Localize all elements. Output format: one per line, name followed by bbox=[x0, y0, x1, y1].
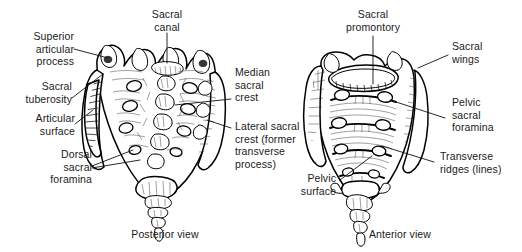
leader-sacral-wings bbox=[418, 55, 448, 68]
label-dorsal-sacral-foramina: Dorsal sacral foramina bbox=[2, 148, 92, 186]
label-median-sacral-crest: Median sacral crest bbox=[235, 66, 297, 104]
label-superior-articular-process: Superior articular process bbox=[2, 30, 74, 68]
label-sacral-wings: Sacral wings bbox=[452, 40, 514, 65]
label-lateral-sacral-crest: Lateral sacral crest (former transverse … bbox=[235, 120, 319, 170]
leader-superior-articular-process bbox=[74, 49, 108, 58]
leader-pelvic-surface bbox=[340, 156, 372, 180]
leader-sacral-tuberosity bbox=[72, 74, 103, 98]
label-pelvic-sacral-foramina: Pelvic sacral foramina bbox=[452, 96, 518, 134]
label-transverse-ridges: Transverse ridges (lines) bbox=[440, 150, 522, 175]
leader-lateral-sacral-crest bbox=[207, 120, 231, 128]
label-pelvic-surface: Pelvic surface bbox=[272, 172, 336, 197]
label-sacral-tuberosity: Sacral tuberosity bbox=[2, 80, 72, 105]
anatomy-figure: Superior articular process Sacral tubero… bbox=[0, 0, 522, 252]
leader-pelvic-sacral-foramina bbox=[390, 100, 445, 118]
label-articular-surface: Articular surface bbox=[2, 112, 75, 137]
leader-articular-surface bbox=[75, 110, 93, 124]
leader-dorsal-sacral-foramina-a bbox=[92, 150, 133, 166]
caption-posterior-view: Posterior view bbox=[105, 228, 225, 240]
caption-anterior-view: Anterior view bbox=[340, 228, 460, 240]
leader-median-sacral-crest bbox=[175, 99, 231, 105]
label-sacral-canal: Sacral canal bbox=[137, 8, 197, 33]
leader-transverse-ridges bbox=[382, 146, 434, 162]
leader-dorsal-sacral-foramina-b bbox=[92, 160, 140, 168]
label-sacral-promontory: Sacral promontory bbox=[331, 8, 415, 33]
